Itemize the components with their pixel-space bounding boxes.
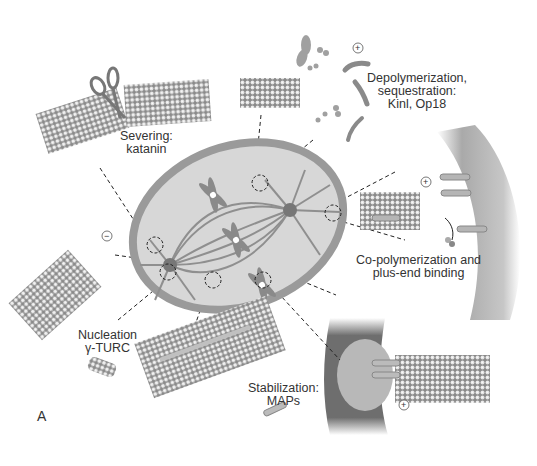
label-severing: Severing: katanin (120, 130, 173, 156)
depolymerizing-microtubule (240, 35, 368, 140)
label-line: MAPs (248, 395, 319, 408)
label-depolymerization: Depolymerization, sequestration: Kinl, O… (367, 72, 467, 111)
microtubule-diagram: Severing: katanin Depolymerization, sequ… (0, 0, 537, 466)
label-nucleation: Nucleation γ-TURC (78, 329, 137, 355)
panel-letter: A (37, 408, 46, 424)
label-line: katanin (120, 143, 173, 156)
label-stabilization: Stabilization: MAPs (248, 382, 319, 408)
minus-sign: − (104, 230, 109, 243)
label-line: Kinl, Op18 (367, 98, 467, 111)
plus-sign: + (355, 42, 360, 55)
plus-sign: + (401, 399, 406, 412)
label-copolymerization: Co-polymerization and plus-end binding (356, 254, 481, 280)
plus-sign: + (423, 176, 428, 189)
nucleation-microtubule (9, 231, 118, 378)
label-line: γ-TURC (78, 342, 137, 355)
label-line: plus-end binding (356, 267, 481, 280)
